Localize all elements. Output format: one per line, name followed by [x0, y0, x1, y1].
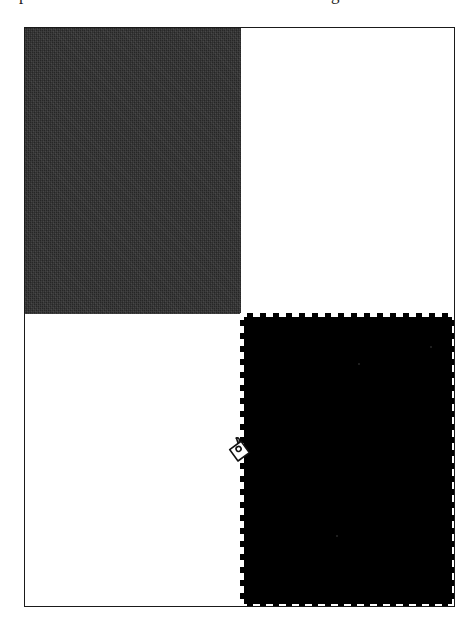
figure-frame [24, 27, 455, 607]
scan-speckle [358, 363, 360, 365]
scan-speckle [336, 535, 338, 537]
clipped-text-fragment-right: g [331, 0, 340, 3]
marquee-edge-right [452, 313, 454, 606]
marquee-edge-top [240, 313, 454, 317]
shape-rect-dark-gray[interactable] [25, 28, 241, 314]
shape-rect-black-selected[interactable] [240, 313, 454, 606]
grab-hand-cursor-icon[interactable] [223, 435, 257, 469]
scan-speckle [430, 346, 432, 348]
clipped-text-row: p g [0, 0, 476, 11]
selection-marquee [240, 313, 454, 606]
marquee-edge-bottom [240, 604, 454, 606]
clipped-text-fragment-left: p [19, 0, 28, 3]
drawing-canvas[interactable] [25, 28, 454, 606]
